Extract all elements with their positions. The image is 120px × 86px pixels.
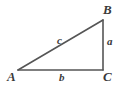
side-label-hypotenuse: c [57,35,62,46]
vertex-label-a: A [7,70,16,83]
side-label-vertical: a [107,36,113,47]
vertex-label-c: C [103,70,112,83]
side-label-horizontal: b [59,72,65,83]
right-triangle-figure: A B C c a b [0,0,120,86]
vertex-label-b: B [103,3,112,16]
